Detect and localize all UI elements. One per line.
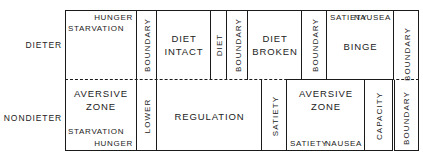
row-label-nondieter: NONDIETER (0, 113, 62, 123)
label-aversive-left-line2: ZONE (86, 101, 116, 112)
label-diet-intact-line1: DIET (171, 33, 196, 44)
cell-aversive-zone-right: AVERSIVE ZONE SATIETY NAUSEA (287, 80, 365, 151)
column-boundary-1: BOUNDARY (137, 10, 157, 80)
label-boundary-4: BOUNDARY (402, 27, 411, 81)
row-label-dieter: DIETER (6, 40, 62, 50)
border-left (65, 80, 66, 151)
column-capacity: CAPACITY (365, 80, 393, 151)
border-bottom (365, 150, 393, 151)
boundary-4-bottom-edge (394, 150, 419, 151)
column-boundary-2: BOUNDARY (227, 10, 248, 80)
column-diet: DIET (211, 10, 227, 80)
cell-starvation-hunger-dieter: HUNGER STARVATION (65, 10, 137, 80)
label-aversive-right-satiety: SATIETY (290, 139, 328, 148)
label-binge-nausea: NAUSEA (354, 13, 391, 22)
cell-diet-broken: DIET BROKEN (248, 10, 302, 80)
border-bottom (287, 150, 365, 151)
border-bottom (262, 150, 287, 151)
label-hunger-top: HUNGER (94, 13, 133, 22)
cell-regulation: REGULATION (157, 80, 262, 151)
border-bottom (137, 150, 157, 151)
label-capacity-column: CAPACITY (375, 91, 384, 139)
cell-binge: SATIETY NAUSEA BINGE (327, 10, 394, 80)
label-diet-broken-line2: BROKEN (252, 46, 298, 57)
boundary-4-lower-right-edge (418, 80, 419, 151)
label-diet-column: DIET (215, 34, 224, 57)
border-bottom (157, 150, 262, 151)
label-lower-column: LOWER (143, 98, 152, 133)
border-top (227, 10, 248, 11)
border-right (418, 10, 419, 81)
column-lower: LOWER (137, 80, 157, 151)
border-right (392, 80, 393, 151)
label-aversive-right-nausea: NAUSEA (325, 139, 362, 148)
label-starvation-top: STARVATION (68, 24, 124, 33)
boundary-4-lower-left-edge (394, 80, 395, 151)
border-top (137, 10, 157, 11)
border-top (394, 10, 419, 11)
label-aversive-right-line1: AVERSIVE (299, 88, 353, 99)
label-aversive-right-line2: ZONE (311, 101, 341, 112)
label-diet-broken-line1: DIET (262, 33, 287, 44)
label-satiety-column: SATIETY (270, 95, 279, 135)
border-top (327, 10, 394, 11)
label-regulation: REGULATION (174, 111, 244, 122)
label-boundary-1: BOUNDARY (143, 18, 152, 72)
cell-diet-intact: DIET INTACT (157, 10, 211, 80)
label-aversive-left-starvation: STARVATION (68, 127, 124, 136)
label-boundary-2: BOUNDARY (233, 18, 242, 72)
boundary-model-diagram: DIETER NONDIETER HUNGER STARVATION BOUND… (0, 0, 423, 158)
border-top (302, 10, 327, 11)
aversive-right-top-edge (287, 79, 393, 80)
column-boundary-3: BOUNDARY (302, 10, 327, 80)
column-satiety: SATIETY (262, 80, 287, 151)
label-boundary-4-lower: BOUNDARY (402, 91, 411, 145)
border-bottom (65, 150, 137, 151)
label-aversive-left-hunger: HUNGER (94, 139, 133, 148)
border-top (157, 10, 211, 11)
column-boundary-4: BOUNDARY (394, 10, 419, 81)
cell-aversive-zone-left: AVERSIVE ZONE STARVATION HUNGER (65, 80, 137, 151)
border-top (248, 10, 302, 11)
label-diet-intact-line2: INTACT (165, 46, 204, 57)
label-binge-center: BINGE (343, 41, 377, 52)
border-top (211, 10, 227, 11)
border-left (65, 10, 66, 80)
label-boundary-3: BOUNDARY (310, 18, 319, 72)
border-top (65, 10, 137, 11)
label-aversive-left-line1: AVERSIVE (74, 88, 128, 99)
